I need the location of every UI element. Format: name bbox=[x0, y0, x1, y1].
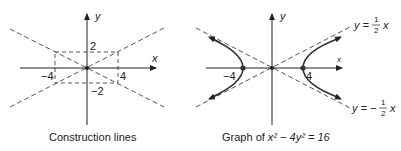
vertex-label-neg: −4 bbox=[223, 70, 236, 82]
tick-x-neg: −4 bbox=[41, 70, 54, 82]
svg-text:x: x bbox=[382, 19, 389, 31]
origin-dot bbox=[85, 66, 89, 70]
y-axis-label: y bbox=[94, 10, 102, 22]
hyperbola-graph-panel: y x 4 −4 y = 1 2 x y = − 1 2 x Graph of … bbox=[196, 10, 396, 143]
hyperbola-figure: y x 2 −2 4 −4 Construction lines y x 4 −… bbox=[0, 0, 401, 151]
svg-text:x: x bbox=[389, 102, 396, 114]
arrow-right-upper bbox=[330, 37, 341, 42]
svg-text:2: 2 bbox=[374, 26, 379, 35]
arrow-left-lower bbox=[209, 94, 220, 99]
asymptote-label-negative: y = − 1 2 x bbox=[351, 98, 396, 118]
x-axis-label: x bbox=[336, 55, 342, 64]
vertex-left bbox=[240, 65, 245, 70]
y-axis-label: y bbox=[279, 10, 287, 22]
vertex-label-pos: 4 bbox=[306, 70, 312, 82]
asymptote-label-positive: y = 1 2 x bbox=[353, 15, 389, 35]
svg-text:1: 1 bbox=[381, 98, 386, 107]
tick-y-neg: −2 bbox=[91, 85, 104, 97]
svg-text:1: 1 bbox=[374, 15, 379, 24]
svg-text:y =: y = bbox=[353, 19, 370, 31]
svg-text:2: 2 bbox=[381, 109, 386, 118]
tick-y-pos: 2 bbox=[90, 40, 96, 52]
tick-x-pos: 4 bbox=[120, 70, 126, 82]
svg-text:y = −: y = − bbox=[351, 102, 377, 114]
origin-dot bbox=[270, 66, 274, 70]
construction-lines-panel: y x 2 −2 4 −4 Construction lines bbox=[10, 10, 164, 143]
caption-graph: Graph of x² − 4y² = 16 bbox=[222, 131, 330, 143]
vertex-right bbox=[300, 65, 305, 70]
x-axis-label: x bbox=[151, 52, 158, 64]
caption-construction: Construction lines bbox=[49, 131, 137, 143]
